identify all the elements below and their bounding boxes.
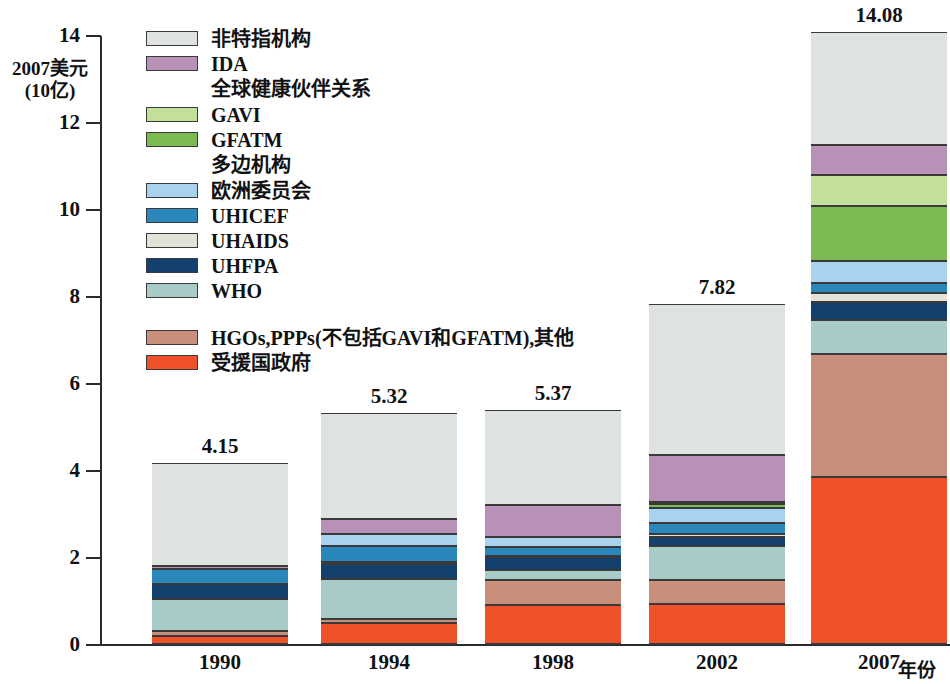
bar-segment [152,463,287,565]
legend-label: 欧洲委员会 [211,181,311,201]
bar-segment [321,564,456,579]
legend-swatch [146,283,198,298]
legend-item[interactable]: 受援国政府 [146,350,626,375]
y-axis-tick-label: 14 [38,25,80,46]
legend-swatch [146,56,198,71]
y-axis-tick [86,470,101,472]
y-axis-tick [86,383,101,385]
legend-label: UHFPA [211,256,278,276]
bar-segment [485,505,620,537]
bar-segment [811,354,946,477]
bar-segment [152,584,287,599]
y-axis-tick [86,122,101,124]
legend-item[interactable]: UHAIDS [146,228,626,253]
bar-segment [321,623,456,644]
y-axis-tick [86,644,101,646]
legend-label: 非特指机构 [211,29,311,49]
y-axis-tick-label: 0 [38,634,80,655]
legend-swatch [146,183,198,198]
legend-item[interactable]: IDA [146,51,626,76]
bar-segment [811,293,946,301]
legend-item[interactable]: UHFPA [146,253,626,278]
bar-segment [649,604,784,644]
legend-swatch [146,132,198,147]
legend-label: WHO [211,281,262,301]
bar-segment [321,519,456,533]
bar-segment [649,523,784,534]
bar-segment [485,537,620,547]
y-axis-tick-label: 6 [38,373,80,394]
legend-swatch [146,355,198,370]
legend-item[interactable]: UHICEF [146,203,626,228]
legend-item[interactable]: GFATM [146,127,626,152]
bar-segment [321,579,456,619]
bar-segment [485,605,620,644]
legend-item[interactable]: GAVI [146,102,626,127]
legend-swatch [146,233,198,248]
bar-segment [811,283,946,293]
legend-swatch [146,31,198,46]
legend-swatch [146,258,198,273]
bar-segment [649,508,784,523]
legend-item[interactable]: HGOs,PPPs(不包括GAVI和GFATM),其他 [146,325,626,350]
bar-segment [811,206,946,262]
legend-label: HGOs,PPPs(不包括GAVI和GFATM),其他 [211,328,574,348]
bar-1990 [153,464,287,645]
bar-segment [811,477,946,644]
bar-segment [649,502,784,504]
stacked-bar-chart: 2007美元 (10亿) 年份 02468101214 4.155.325.37… [0,0,950,684]
legend: 非特指机构IDA全球健康伙伴关系GAVIGFATM多边机构欧洲委员会UHICEF… [146,26,626,375]
bar-segment [152,599,287,631]
y-axis-tick-label: 8 [38,286,80,307]
x-axis-category-label: 2007 [812,650,946,675]
x-axis-category-label: 2002 [650,650,784,675]
bar-segment [485,570,620,580]
bar-segment [152,566,287,569]
bar-total-label: 5.37 [486,381,620,406]
bar-segment [649,537,784,546]
bar-total-label: 7.82 [650,275,784,300]
bar-1998 [486,411,620,645]
legend-label: IDA [211,54,248,74]
bar-segment [152,636,287,644]
bar-segment [649,504,784,507]
bar-segment [321,534,456,546]
bar-segment [649,546,784,580]
y-axis-tick [86,35,101,37]
legend-swatch [146,330,198,345]
legend-spacer [146,303,626,325]
bar-segment [811,145,946,175]
bar-segment [811,261,946,283]
legend-item[interactable]: 欧洲委员会 [146,178,626,203]
bar-segment [811,175,946,205]
bar-segment [649,455,784,502]
legend-item[interactable]: 非特指机构 [146,26,626,51]
y-axis-tick-label: 2 [38,547,80,568]
legend-item[interactable]: 多边机构 [146,152,626,178]
bar-segment [485,410,620,505]
y-axis-line [100,36,102,645]
legend-label: 多边机构 [211,155,291,175]
legend-swatch [146,107,198,122]
y-axis-title: 2007美元 (10亿) [2,58,98,103]
y-axis-title-line1: 2007美元 [2,58,98,80]
bar-segment [152,631,287,636]
bar-segment [649,580,784,604]
legend-label: GFATM [211,130,282,150]
bar-total-label: 5.32 [322,384,456,409]
y-axis-tick-label: 12 [38,112,80,133]
y-axis-tick-label: 10 [38,199,80,220]
legend-item[interactable]: 全球健康伙伴关系 [146,76,626,102]
y-axis-tick-label: 4 [38,460,80,481]
legend-label: UHAIDS [211,231,289,251]
bar-segment [485,547,620,557]
legend-label: GAVI [211,105,261,125]
y-axis-tick [86,209,101,211]
bar-segment [485,557,620,570]
bar-segment [321,619,456,623]
y-axis-tick [86,557,101,559]
legend-item[interactable]: WHO [146,278,626,303]
bar-segment [649,304,784,455]
y-axis-tick [86,296,101,298]
bar-segment [321,413,456,520]
